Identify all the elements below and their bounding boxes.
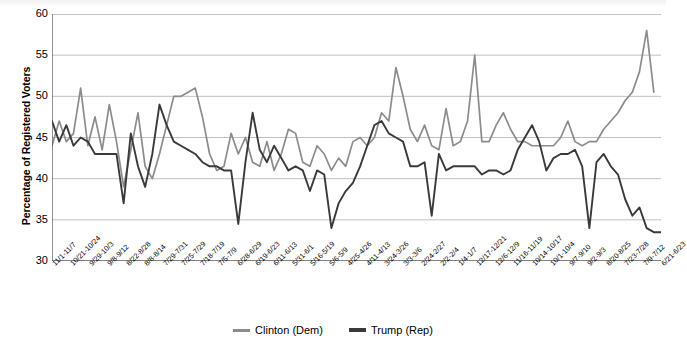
y-tick-label: 45	[24, 132, 48, 143]
x-axis-tick-labels: 11/1-11/710/21-10/249/29-10/39/8-9/128/2…	[52, 262, 661, 322]
y-tick-label: 40	[24, 173, 48, 184]
series-lines	[52, 30, 661, 232]
chart-legend: Clinton (Dem)Trump (Rep)	[0, 324, 666, 336]
legend-label: Clinton (Dem)	[255, 324, 323, 336]
legend-swatch-icon	[233, 329, 250, 332]
y-tick-label: 50	[24, 90, 48, 101]
scan-edge-artifact	[0, 0, 666, 7]
x-tick-label: 6/21-6/23	[660, 240, 687, 267]
y-axis-tick-labels: 60555045403530	[20, 14, 48, 261]
y-tick-label: 60	[24, 8, 48, 19]
y-tick-label: 35	[24, 214, 48, 225]
legend-item: Clinton (Dem)	[233, 324, 323, 336]
gridlines	[52, 14, 661, 261]
legend-swatch-icon	[349, 328, 366, 332]
y-tick-label: 30	[24, 255, 48, 266]
series-line-clinton-dem	[52, 30, 654, 186]
legend-item: Trump (Rep)	[349, 324, 433, 336]
plot-svg	[52, 14, 661, 261]
y-tick-label: 55	[24, 49, 48, 60]
plot-area	[52, 14, 661, 261]
legend-label: Trump (Rep)	[371, 324, 433, 336]
